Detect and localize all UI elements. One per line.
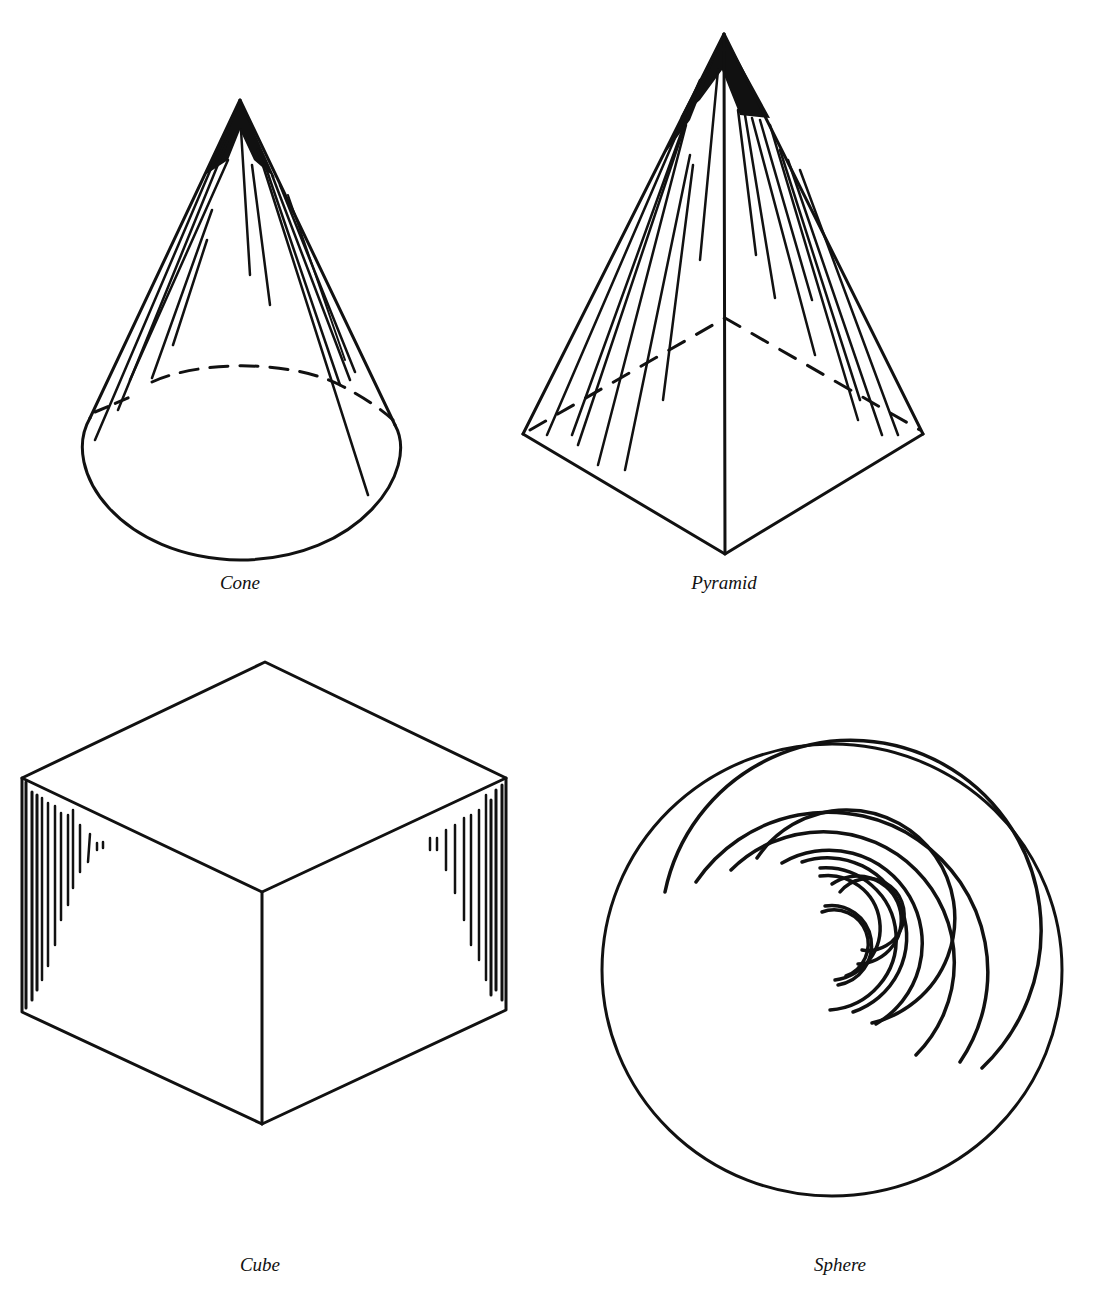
sphere-drawing (602, 740, 1062, 1196)
geometric-solids-diagram: Cone Pyramid Cube Sphere (0, 0, 1094, 1304)
cube-caption: Cube (240, 1254, 280, 1276)
pyramid-caption: Pyramid (691, 572, 756, 594)
diagram-canvas (0, 0, 1094, 1304)
pyramid-drawing (523, 34, 923, 554)
cone-caption: Cone (220, 572, 260, 594)
cube-drawing (22, 662, 506, 1124)
sphere-caption: Sphere (814, 1254, 866, 1276)
cone-drawing (82, 100, 400, 560)
